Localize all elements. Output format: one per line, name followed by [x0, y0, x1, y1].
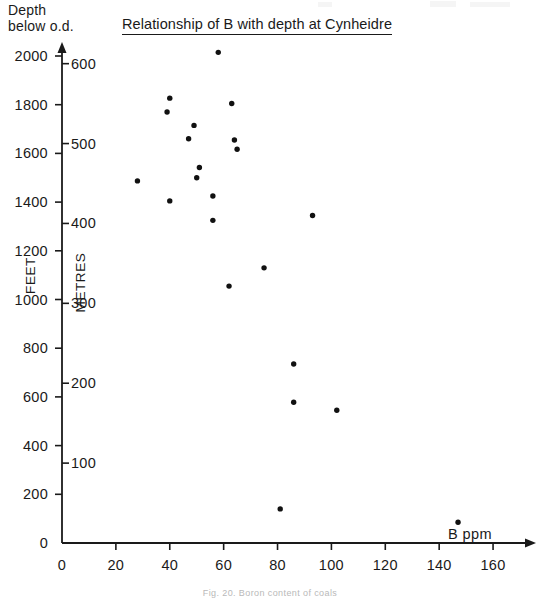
x-tick-label: 80 — [269, 557, 286, 573]
y-tick-label-metres: 200 — [71, 375, 96, 391]
y-tick-label-feet: 400 — [0, 438, 48, 454]
figure-scatter-boron-depth: Depth below o.d. Relationship of B with … — [0, 0, 540, 600]
y-axis-name-metres: METRES — [73, 253, 88, 313]
data-point — [167, 198, 172, 203]
data-point — [455, 520, 460, 525]
data-point — [194, 175, 199, 180]
data-point — [210, 193, 215, 198]
data-point — [167, 95, 172, 100]
x-tick-label: 160 — [481, 557, 506, 573]
x-tick-label: 20 — [108, 557, 125, 573]
data-point — [216, 50, 221, 55]
y-tick-label-feet: 600 — [0, 389, 48, 405]
data-point — [334, 408, 339, 413]
y-tick-label-metres: 400 — [71, 215, 96, 231]
data-point — [135, 178, 140, 183]
y-tick-label-metres: 100 — [71, 455, 96, 471]
y-tick-label-feet: 800 — [0, 340, 48, 356]
y-axis-arrow — [58, 42, 67, 53]
data-point — [210, 218, 215, 223]
data-point — [229, 101, 234, 106]
figure-caption: Fig. 20. Boron content of coals — [203, 588, 337, 598]
y-tick-label-metres: 600 — [71, 56, 96, 72]
x-axis-name: B ppm — [448, 526, 492, 542]
data-point — [164, 109, 169, 114]
x-tick-label: 60 — [215, 557, 232, 573]
y-tick-label-feet: 200 — [0, 486, 48, 502]
x-tick-label: 140 — [427, 557, 452, 573]
data-point — [310, 213, 315, 218]
data-point — [291, 400, 296, 405]
data-point — [226, 283, 231, 288]
data-point — [261, 265, 266, 270]
data-point — [234, 147, 239, 152]
data-point — [191, 123, 196, 128]
x-tick-label: 0 — [58, 557, 66, 573]
data-point — [232, 137, 237, 142]
y-tick-label-feet: 1400 — [0, 194, 48, 210]
x-tick-label: 100 — [319, 557, 344, 573]
x-axis-arrow — [525, 539, 536, 548]
y-tick-label-feet: 1800 — [0, 97, 48, 113]
y-tick-label-metres: 500 — [71, 136, 96, 152]
y-axis-name-feet: FEET — [23, 257, 38, 294]
data-point — [197, 165, 202, 170]
data-point — [186, 136, 191, 141]
y-tick-label-feet: 2000 — [0, 48, 48, 64]
x-tick-label: 120 — [373, 557, 398, 573]
y-tick-label-feet: 0 — [0, 535, 48, 551]
x-tick-label: 40 — [161, 557, 178, 573]
data-point — [278, 506, 283, 511]
data-point — [291, 361, 296, 366]
y-tick-label-feet: 1600 — [0, 145, 48, 161]
